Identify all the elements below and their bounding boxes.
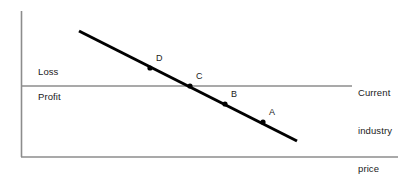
- region-label-loss: Loss: [38, 67, 58, 78]
- data-point-label-d: D: [156, 53, 163, 63]
- current-industry-price-label: Current industry price: [358, 62, 392, 174]
- data-point-a: [260, 119, 265, 124]
- data-point-c: [187, 83, 192, 88]
- current-industry-price-label-line2: industry: [358, 125, 392, 138]
- chart-canvas: [0, 0, 410, 174]
- data-point-label-b: B: [231, 89, 237, 99]
- region-label-profit: Profit: [38, 92, 61, 103]
- data-point-label-a: A: [269, 107, 275, 117]
- current-industry-price-label-line1: Current: [358, 87, 392, 100]
- chart-figure: Loss Profit D C B A Current industry pri…: [0, 0, 410, 174]
- data-point-label-c: C: [196, 71, 203, 81]
- data-point-d: [147, 65, 152, 70]
- current-industry-price-label-line3: price: [358, 163, 392, 174]
- data-point-b: [222, 101, 227, 106]
